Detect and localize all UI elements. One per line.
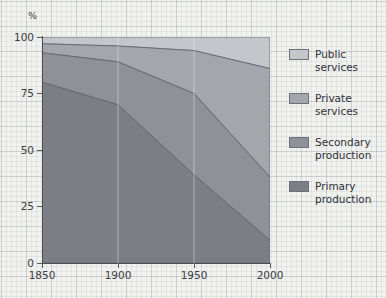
x-axis-line: [42, 263, 271, 264]
legend-swatch-icon-private-services: [289, 93, 309, 104]
legend-label-public-services: Public services: [315, 48, 358, 73]
x-tick-label-1950: 1950: [171, 270, 217, 281]
x-tick-mark-1900: [118, 263, 119, 268]
plot-area: [42, 37, 270, 263]
y-tick-label-0: 0: [6, 258, 34, 268]
y-tick-label-100: 100: [6, 32, 34, 42]
x-tick-mark-1850: [42, 263, 43, 268]
y-axis-title: %: [28, 11, 37, 21]
legend-label-private-services: Private services: [315, 92, 358, 117]
x-tick-label-2000: 2000: [247, 270, 293, 281]
legend-item-private-services[interactable]: Private services: [289, 92, 383, 117]
y-tick-label-75: 75: [6, 88, 34, 98]
x-tick-mark-2000: [270, 263, 271, 268]
legend-item-public-services[interactable]: Public services: [289, 48, 383, 73]
legend-item-secondary-production[interactable]: Secondary production: [289, 136, 383, 161]
x-tick-label-1850: 1850: [19, 270, 65, 281]
y-tick-label-25: 25: [6, 201, 34, 211]
legend-swatch-icon-secondary-production: [289, 137, 309, 148]
x-tick-mark-1950: [194, 263, 195, 268]
legend-label-primary-production: Primary production: [315, 180, 371, 205]
y-tick-label-50: 50: [6, 145, 34, 155]
x-tick-label-1900: 1900: [95, 270, 141, 281]
legend-item-primary-production[interactable]: Primary production: [289, 180, 383, 205]
chart-page: % 100 75 50 25 0: [0, 0, 386, 298]
legend-swatch-icon-primary-production: [289, 181, 309, 192]
legend-label-secondary-production: Secondary production: [315, 136, 371, 161]
stacked-area-chart: [42, 37, 270, 263]
legend-swatch-icon-public-services: [289, 49, 309, 60]
y-axis-line: [42, 36, 43, 264]
chart-legend: Public services Private services Seconda…: [289, 48, 383, 224]
